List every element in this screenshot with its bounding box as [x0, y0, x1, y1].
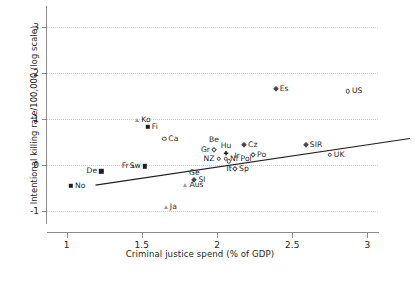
data-point-label-sw: Sw [130, 161, 141, 170]
data-point-marker-po [250, 152, 256, 158]
data-point-label-sir: SIR [310, 140, 323, 149]
y-tick [42, 73, 47, 74]
data-point-marker-sir [303, 142, 309, 148]
gridline [47, 119, 378, 120]
x-tick-label: 1 [64, 240, 70, 250]
data-point-label-po: Po [257, 150, 266, 159]
gridline [47, 73, 378, 74]
y-tick [42, 165, 47, 166]
y-tick [42, 211, 47, 212]
x-axis-spine [47, 232, 379, 233]
data-point-label-fr: Fr [122, 161, 129, 170]
data-point-label-no: No [75, 181, 85, 190]
x-tick [67, 233, 68, 238]
data-point-label-gr: Gr [201, 145, 210, 154]
x-tick [367, 233, 368, 238]
y-tick [42, 119, 47, 120]
y-tick-label: -1 [17, 206, 39, 216]
data-point-marker-de [99, 169, 103, 173]
x-tick [142, 233, 143, 238]
data-point-label-cz: Cz [248, 140, 257, 149]
data-point-marker-ca [162, 136, 166, 140]
x-tick-label: 3 [365, 240, 371, 250]
data-point-label-de: De [87, 166, 98, 175]
data-point-marker-ko [135, 118, 139, 122]
data-point-label-aus: Aus [189, 180, 203, 189]
plot-area: -10123 11.522.53 NoDeFrSwKoFiCaGeSlAusJa… [47, 6, 378, 223]
data-point-label-ja: Ja [170, 202, 177, 211]
data-point-marker-es [273, 86, 279, 92]
data-point-marker-no [69, 184, 73, 188]
data-point-label-us: US [352, 86, 362, 95]
y-tick-label: 1 [17, 114, 39, 124]
data-point-marker-gr [211, 147, 217, 153]
x-tick [217, 233, 218, 238]
data-point-marker-sw [143, 164, 147, 168]
gridline [47, 211, 378, 212]
data-point-marker-hu [224, 151, 229, 156]
data-point-label-uk: UK [334, 150, 345, 159]
x-tick-label: 2 [214, 240, 220, 250]
data-point-label-hu: Hu [221, 141, 232, 150]
data-point-label-nz: NZ [204, 154, 215, 163]
data-point-label-ca: Ca [168, 134, 178, 143]
data-point-label-ir: Ir [235, 151, 240, 160]
data-point-label-es: Es [280, 84, 289, 93]
data-point-label-fi: Fi [152, 122, 158, 131]
data-point-marker-sp [232, 166, 238, 172]
x-tick [292, 233, 293, 238]
data-point-label-sp: Sp [239, 164, 249, 173]
x-axis-label: Criminal justice spend (% of GDP) [0, 249, 400, 259]
data-point-marker-fi [146, 125, 150, 129]
x-tick-label: 2.5 [285, 240, 299, 250]
data-point-marker-ja [164, 205, 168, 209]
data-point-label-be: Be [209, 135, 219, 144]
y-tick-label: 0 [17, 160, 39, 170]
gridline [47, 27, 378, 28]
y-tick-label: 2 [17, 68, 39, 78]
y-tick-label: 3 [17, 22, 39, 32]
data-point-marker-aus [183, 183, 187, 187]
data-point-marker-us [346, 89, 350, 93]
y-tick [42, 27, 47, 28]
data-point-label-ko: Ko [141, 115, 150, 124]
data-point-marker-uk [328, 152, 332, 156]
x-tick-label: 1.5 [135, 240, 149, 250]
data-point-marker-nz [216, 157, 220, 161]
data-point-marker-cz [241, 142, 247, 148]
